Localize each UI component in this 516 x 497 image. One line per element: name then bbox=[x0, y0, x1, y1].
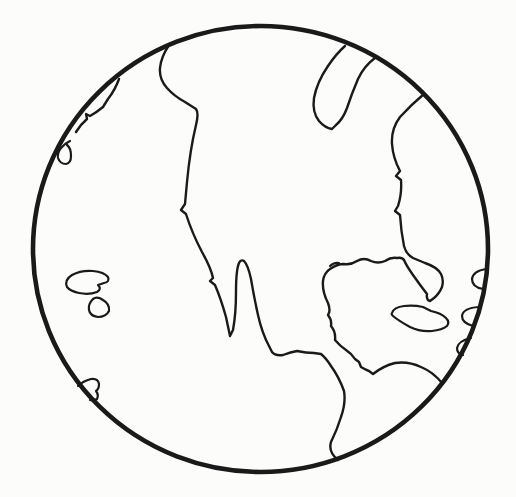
island-hawaii-large bbox=[66, 271, 108, 294]
globe-outline bbox=[33, 26, 488, 472]
hudson-bay-inlet bbox=[314, 46, 375, 129]
page bbox=[0, 0, 516, 497]
globe-drawing bbox=[0, 0, 516, 497]
pacific-coastline bbox=[160, 45, 345, 460]
island-hawaii-small bbox=[89, 298, 109, 317]
island-cuba bbox=[392, 306, 449, 332]
rim-peninsula-sliver bbox=[76, 79, 119, 132]
globe-layer bbox=[33, 26, 488, 472]
atlantic-gulf-coastline bbox=[323, 94, 443, 383]
